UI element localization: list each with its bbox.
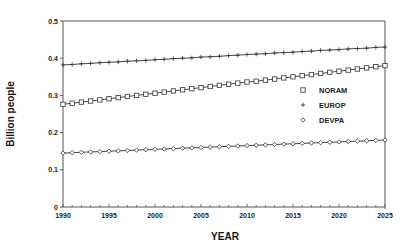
x-tick-label: 2005 — [193, 212, 209, 219]
square-marker-icon — [272, 77, 276, 81]
square-marker-icon — [190, 87, 194, 91]
plus-marker-icon — [236, 53, 240, 57]
y-axis: 00.10.20.30.40.5 — [48, 18, 63, 211]
square-marker-icon — [254, 79, 258, 83]
diamond-marker-icon — [153, 147, 157, 151]
y-tick-label: 0.1 — [48, 166, 58, 173]
diamond-marker-icon — [88, 150, 92, 154]
square-marker-icon — [374, 65, 378, 69]
diamond-marker-icon — [272, 142, 276, 146]
plus-marker-icon — [337, 47, 341, 51]
square-marker-icon — [226, 82, 230, 86]
diamond-marker-icon — [116, 149, 120, 153]
square-marker-icon — [208, 84, 212, 88]
plus-marker-icon — [153, 57, 157, 61]
plus-marker-icon — [364, 46, 368, 50]
legend-label: EUROP — [319, 101, 346, 110]
square-marker-icon — [217, 83, 221, 87]
diamond-legend-icon — [301, 118, 305, 122]
diamond-marker-icon — [328, 140, 332, 144]
square-marker-icon — [61, 102, 65, 106]
plus-marker-icon — [291, 50, 295, 54]
square-marker-icon — [79, 100, 83, 104]
diamond-marker-icon — [134, 148, 138, 152]
y-tick-label: 0.4 — [48, 55, 58, 62]
diamond-marker-icon — [383, 138, 387, 142]
x-tick-label: 2000 — [147, 212, 163, 219]
legend-label: DEVPA — [319, 116, 345, 125]
square-marker-icon — [383, 63, 387, 67]
square-marker-icon — [364, 66, 368, 70]
legend: NORAMEUROPDEVPA — [301, 86, 348, 125]
square-marker-icon — [171, 89, 175, 93]
diamond-marker-icon — [282, 142, 286, 146]
plus-marker-icon — [79, 62, 83, 66]
x-tick-label: 1990 — [55, 212, 71, 219]
x-axis-title: YEAR — [211, 231, 240, 242]
plus-marker-icon — [263, 52, 267, 56]
plus-marker-icon — [300, 49, 304, 53]
diamond-marker-icon — [171, 146, 175, 150]
diamond-marker-icon — [236, 144, 240, 148]
square-marker-icon — [318, 71, 322, 75]
plus-marker-icon — [309, 49, 313, 53]
square-marker-icon — [98, 98, 102, 102]
plus-marker-icon — [70, 62, 74, 66]
diamond-marker-icon — [291, 142, 295, 146]
square-marker-icon — [300, 73, 304, 77]
diamond-marker-icon — [364, 139, 368, 143]
series-line — [63, 47, 385, 65]
plus-legend-icon — [301, 103, 305, 107]
diamond-marker-icon — [300, 141, 304, 145]
plus-marker-icon — [107, 60, 111, 64]
square-marker-icon — [116, 95, 120, 99]
legend-label: NORAM — [319, 86, 347, 95]
y-axis-title: Billion people — [5, 81, 16, 147]
y-tick-label: 0 — [54, 204, 58, 211]
square-marker-icon — [291, 75, 295, 79]
legend-item-devpa: DEVPA — [301, 116, 345, 125]
diamond-marker-icon — [346, 139, 350, 143]
diamond-marker-icon — [337, 140, 341, 144]
plus-marker-icon — [134, 59, 138, 63]
diamond-marker-icon — [180, 146, 184, 150]
square-marker-icon — [125, 94, 129, 98]
plus-marker-icon — [328, 48, 332, 52]
plus-marker-icon — [346, 47, 350, 51]
square-marker-icon — [282, 76, 286, 80]
square-marker-icon — [355, 67, 359, 71]
square-marker-icon — [328, 70, 332, 74]
diamond-marker-icon — [70, 150, 74, 154]
diamond-marker-icon — [125, 148, 129, 152]
y-tick-label: 0.5 — [48, 18, 58, 25]
diamond-marker-icon — [355, 139, 359, 143]
plus-marker-icon — [171, 56, 175, 60]
diamond-marker-icon — [245, 143, 249, 147]
square-marker-icon — [88, 99, 92, 103]
plus-marker-icon — [254, 52, 258, 56]
line-chart: 00.10.20.30.40.5 19901995200020052010201… — [0, 0, 411, 252]
square-marker-icon — [346, 68, 350, 72]
x-tick-label: 2020 — [331, 212, 347, 219]
square-marker-icon — [337, 69, 341, 73]
square-marker-icon — [162, 90, 166, 94]
square-marker-icon — [263, 78, 267, 82]
diamond-marker-icon — [374, 138, 378, 142]
series-devpa — [61, 138, 387, 155]
square-marker-icon — [180, 88, 184, 92]
plus-marker-icon — [282, 50, 286, 54]
diamond-marker-icon — [61, 151, 65, 155]
diamond-marker-icon — [208, 145, 212, 149]
x-tick-label: 2010 — [239, 212, 255, 219]
plus-marker-icon — [162, 57, 166, 61]
plus-marker-icon — [125, 59, 129, 63]
square-marker-icon — [107, 97, 111, 101]
diamond-marker-icon — [309, 141, 313, 145]
plus-marker-icon — [318, 48, 322, 52]
legend-item-europ: EUROP — [301, 101, 346, 110]
plus-marker-icon — [61, 63, 65, 67]
square-marker-icon — [245, 80, 249, 84]
diamond-marker-icon — [217, 145, 221, 149]
plus-marker-icon — [208, 55, 212, 59]
plus-marker-icon — [88, 61, 92, 65]
